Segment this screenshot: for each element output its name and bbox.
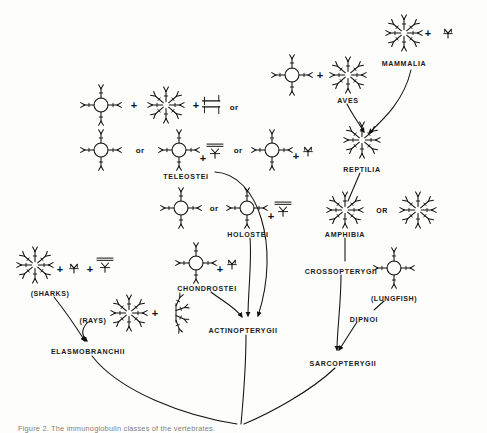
taxon-label-dipnoi: DIPNOI [350, 316, 378, 324]
molecule-aves-star [330, 57, 366, 93]
operator-op-tel1-plus1: + [131, 99, 137, 111]
molecule-rays-star [111, 295, 147, 331]
molecule-chon-unit [228, 260, 237, 269]
molecule-sharks-cross [97, 258, 113, 272]
molecule-sharks-star [17, 247, 53, 283]
figure-canvas: ++OR++oror+or+or+++++ MAMMALIAAVESREPTIL… [0, 0, 487, 433]
molecule-aves-ring [272, 55, 313, 96]
operator-op-tel2-plus1: + [200, 152, 206, 164]
molecule-mammalia-ig [386, 15, 422, 51]
operator-op-mammalia-plus: + [425, 27, 431, 39]
taxon-label-sharks: (SHARKS) [31, 290, 70, 298]
operator-op-tel2-plus2: + [293, 150, 299, 162]
molecule-lungfish-ring [374, 248, 415, 289]
operator-op-tel2-or2: or [234, 146, 243, 155]
molecule-tel1-ring [81, 85, 122, 126]
taxon-label-chondrostei: CHONDROSTEI [177, 285, 237, 293]
taxon-label-mammalia: MAMMALIA [382, 60, 427, 68]
taxon-label-amphibia: AMPHIBIA [325, 231, 365, 239]
taxon-label-elasmobranchii: ELASMOBRANCHII [51, 348, 125, 356]
molecule-tel1-dimer [202, 95, 219, 113]
operator-op-sharks-plus1: + [57, 263, 63, 275]
operator-op-sharks-plus2: + [87, 263, 93, 275]
molecule-tel2-ring2 [159, 130, 200, 171]
operator-op-amphibia-or: OR [376, 207, 388, 214]
operator-op-tel1-or: or [230, 103, 239, 112]
molecule-amphibia-starB [400, 192, 436, 228]
molecule-hol-unit [275, 202, 291, 216]
taxon-label-holostei: HOLOSTEI [227, 231, 268, 239]
operator-op-aves-plus: + [317, 69, 323, 81]
figure-caption: Figure 2. The immunoglobulin classes of … [18, 424, 215, 433]
operator-op-rays-plus: + [152, 307, 158, 319]
molecule-amphibia-starA [327, 192, 363, 228]
taxon-label-crossopterygii: CROSSOPTERYGII [305, 268, 378, 276]
molecule-hol-ring1 [161, 188, 202, 229]
molecule-tel2-unitA [207, 144, 223, 158]
taxon-label-teleostei: TELEOSTEI [163, 173, 208, 181]
taxon-label-reptilia: REPTILIA [343, 166, 381, 174]
molecule-tel2-ring1 [81, 130, 122, 171]
taxon-label-rays: (RAYS) [80, 317, 107, 325]
operator-op-tel2-or1: or [136, 146, 145, 155]
molecule-sharks-mono [70, 264, 79, 273]
taxon-label-aves: AVES [337, 97, 358, 105]
molecule-mammalia-mono [444, 29, 453, 38]
operator-op-chon-plus: + [217, 263, 223, 275]
molecule-rays-half [176, 293, 189, 333]
operator-op-hol-plus: + [268, 210, 274, 222]
operator-op-hol-or: or [210, 204, 219, 213]
taxon-label-actinopterygii: ACTINOPTERYGII [208, 327, 277, 335]
taxon-label-lungfish: (LUNGFISH) [371, 295, 417, 303]
molecule-reptilia-star [344, 122, 380, 158]
molecule-tel2-ring3 [252, 130, 293, 171]
taxon-label-sarcopterygii: SARCOPTERYGII [310, 360, 377, 368]
molecule-tel2-unitB [304, 147, 313, 156]
molecule-chon-ring [176, 243, 217, 284]
molecule-tel1-star [148, 87, 184, 123]
molecule-hol-ring2 [227, 188, 268, 229]
operator-op-tel1-plus2: + [193, 99, 199, 111]
